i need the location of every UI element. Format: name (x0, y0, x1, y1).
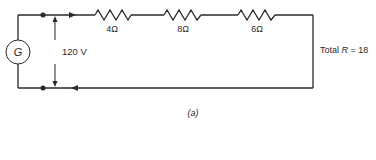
resistor-8-ohm-label: 8Ω (177, 24, 189, 34)
junction-dot-bottom (41, 86, 46, 91)
resistor-6-ohm-label: 6Ω (251, 24, 263, 34)
current-arrow-right-icon (69, 12, 76, 18)
series-circuit-diagram: G 120 V 4Ω 8Ω 6Ω Total R = 18 (a) (0, 0, 376, 160)
total-resistance-label: Total R = 18 (320, 45, 368, 55)
voltage-label: 120 V (62, 46, 87, 57)
current-arrow-left-icon (71, 85, 78, 91)
arrowhead-down-icon (53, 81, 58, 87)
generator-label: G (14, 46, 23, 58)
total-suffix: = 18 (348, 45, 368, 55)
resistor-6-ohm (238, 10, 275, 20)
resistor-4-ohm-label: 4Ω (106, 24, 118, 34)
figure-caption: (a) (188, 108, 199, 118)
resistor-8-ohm (164, 10, 201, 20)
arrowhead-up-icon (53, 16, 58, 22)
junction-dot-top (41, 13, 46, 18)
resistor-4-ohm (95, 10, 131, 20)
total-prefix: Total (320, 45, 342, 55)
